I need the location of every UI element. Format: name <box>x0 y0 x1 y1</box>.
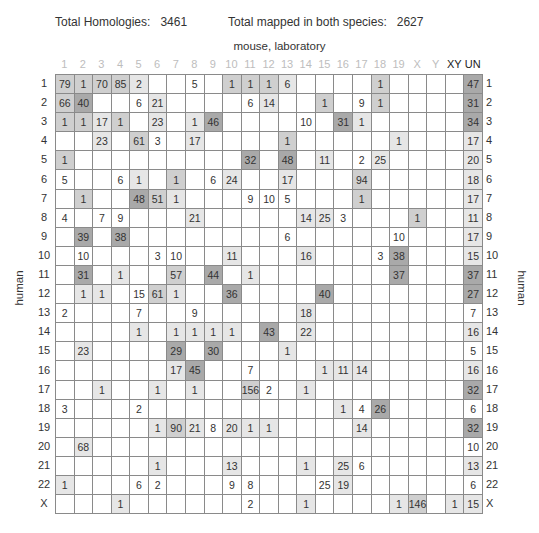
grid-cell: 37 <box>390 265 409 284</box>
grid-cell: 23 <box>74 342 93 361</box>
table-row: 664062161419131 <box>56 94 483 113</box>
grid-cell <box>408 227 427 246</box>
grid-cell: 1 <box>74 285 93 304</box>
row-label-right: 22 <box>486 475 506 494</box>
grid-cell: 32 <box>464 418 483 437</box>
grid-cell <box>204 227 223 246</box>
grid-cell <box>130 151 149 170</box>
grid-cell <box>93 418 112 437</box>
row-label-left: 13 <box>34 303 54 322</box>
grid-cell <box>148 170 167 189</box>
grid-cell <box>223 380 242 399</box>
grid-cell: 46 <box>204 113 223 132</box>
grid-cell <box>93 151 112 170</box>
grid-cell <box>408 399 427 418</box>
grid-cell: 1 <box>315 361 334 380</box>
grid-cell <box>167 208 186 227</box>
row-label-right: 21 <box>486 456 506 475</box>
grid-cell: 6 <box>278 75 297 94</box>
grid-cell <box>130 342 149 361</box>
grid-cell <box>371 418 390 437</box>
grid-cell: 31 <box>334 113 353 132</box>
grid-cell: 32 <box>241 151 260 170</box>
row-label-right: 9 <box>486 227 506 246</box>
grid-cell <box>130 208 149 227</box>
grid-cell: 1 <box>130 323 149 342</box>
grid-cell <box>371 456 390 475</box>
grid-cell <box>445 285 464 304</box>
grid-cell <box>408 456 427 475</box>
column-header: 1 <box>55 58 74 72</box>
grid-cell: 1 <box>445 495 464 514</box>
grid-cell: 13 <box>223 456 242 475</box>
grid-cell <box>315 265 334 284</box>
grid-cell: 38 <box>111 227 130 246</box>
grid-cell: 13 <box>464 456 483 475</box>
table-row: 11171231461031134 <box>56 113 483 132</box>
grid-cell: 44 <box>204 265 223 284</box>
row-label-right: 12 <box>486 284 506 303</box>
grid-cell <box>223 151 242 170</box>
grid-cell: 3 <box>148 246 167 265</box>
grid-cell <box>223 227 242 246</box>
row-label-left: 18 <box>34 399 54 418</box>
grid-cell <box>427 418 446 437</box>
grid-cell <box>334 151 353 170</box>
grid-cell: 22 <box>297 323 316 342</box>
grid-cell: 21 <box>148 94 167 113</box>
grid-cell <box>204 189 223 208</box>
grid-cell <box>74 495 93 514</box>
grid-cell <box>241 246 260 265</box>
grid-cell <box>185 151 204 170</box>
grid-cell <box>371 208 390 227</box>
grid-cell <box>427 456 446 475</box>
grid-cell: 45 <box>185 361 204 380</box>
grid-cell <box>260 113 279 132</box>
grid-cell <box>297 399 316 418</box>
grid-cell <box>260 170 279 189</box>
y-axis-title-left: human <box>13 263 25 313</box>
grid-cell <box>74 418 93 437</box>
grid-cell: 61 <box>148 285 167 304</box>
grid-cell <box>315 170 334 189</box>
grid-cell <box>204 380 223 399</box>
grid-cell <box>241 227 260 246</box>
x-axis-title: mouse, laboratory <box>0 40 539 52</box>
grid-cell <box>427 208 446 227</box>
grid-cell <box>278 399 297 418</box>
grid-cell <box>445 113 464 132</box>
grid-cell: 18 <box>297 304 316 323</box>
row-label-left: 10 <box>34 246 54 265</box>
grid-cell <box>223 94 242 113</box>
grid-cell: 23 <box>148 113 167 132</box>
row-label-right: 11 <box>486 265 506 284</box>
grid-cell <box>148 361 167 380</box>
grid-cell <box>408 170 427 189</box>
grid-cell <box>93 437 112 456</box>
grid-cell <box>204 495 223 514</box>
total-homologies-value: 3461 <box>160 15 187 29</box>
row-label-right: 6 <box>486 170 506 189</box>
table-row: 6810 <box>56 437 483 456</box>
grid-cell <box>408 304 427 323</box>
grid-cell <box>130 265 149 284</box>
grid-cell: 21 <box>185 208 204 227</box>
grid-cell: 5 <box>278 189 297 208</box>
column-header: 16 <box>334 58 353 72</box>
table-row: 1211146115 <box>56 495 483 514</box>
grid-cell <box>390 323 409 342</box>
grid-cell: 8 <box>241 475 260 494</box>
grid-cell: 1 <box>130 170 149 189</box>
grid-cell <box>111 399 130 418</box>
grid-cell <box>56 189 75 208</box>
row-label-right: 14 <box>486 322 506 341</box>
grid-cell <box>185 94 204 113</box>
grid-cell <box>260 304 279 323</box>
grid-cell <box>111 418 130 437</box>
grid-cell: 68 <box>74 437 93 456</box>
grid-cell <box>56 456 75 475</box>
grid-cell: 6 <box>111 170 130 189</box>
grid-cell: 6 <box>278 227 297 246</box>
grid-cell: 15 <box>130 285 149 304</box>
grid-cell <box>185 475 204 494</box>
